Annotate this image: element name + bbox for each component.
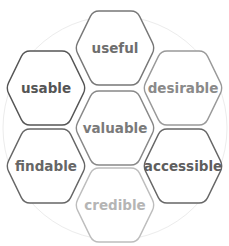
ux-honeycomb-diagram: useful usable desirable valuable findabl… (0, 0, 229, 246)
hexagon-label-useful: useful (92, 40, 139, 56)
hexagon-label-valuable: valuable (83, 120, 148, 136)
hexagon-label-credible: credible (84, 197, 146, 213)
hexagon-label-desirable: desirable (148, 80, 219, 96)
hexagon-label-accessible: accessible (144, 158, 222, 174)
hexagon-label-usable: usable (21, 80, 71, 96)
hexagon-label-findable: findable (15, 158, 77, 174)
